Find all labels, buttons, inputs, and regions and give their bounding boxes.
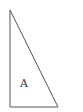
triangle-label: A: [19, 77, 29, 90]
right-triangle: [10, 10, 58, 107]
diagram-canvas: A: [0, 0, 83, 112]
